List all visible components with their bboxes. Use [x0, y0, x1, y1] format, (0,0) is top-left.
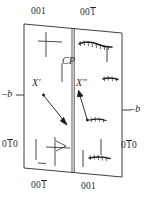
label-right-index: 010 — [121, 140, 137, 150]
axis-ticks — [16, 95, 131, 110]
label-left-axis: –b — [2, 88, 12, 99]
label-top-left: 001 — [31, 6, 46, 16]
label-bottom-right: 001 — [81, 181, 96, 191]
label-composition-plane: CP — [62, 55, 75, 66]
left-panel-features — [36, 32, 70, 166]
label-defect-x-double-prime: X″ — [76, 77, 87, 88]
right-panel-features — [79, 41, 118, 168]
label-right-axis: –b — [130, 103, 140, 114]
label-left-index: 010 — [2, 139, 18, 149]
label-bottom-left: 001 — [31, 180, 47, 190]
label-top-right: 001 — [80, 7, 96, 17]
label-defect-x-prime: X′ — [32, 77, 41, 88]
crystal-twin-figure — [0, 0, 152, 202]
defect-arrows — [42, 91, 88, 126]
composition-plane-line — [72, 29, 74, 173]
